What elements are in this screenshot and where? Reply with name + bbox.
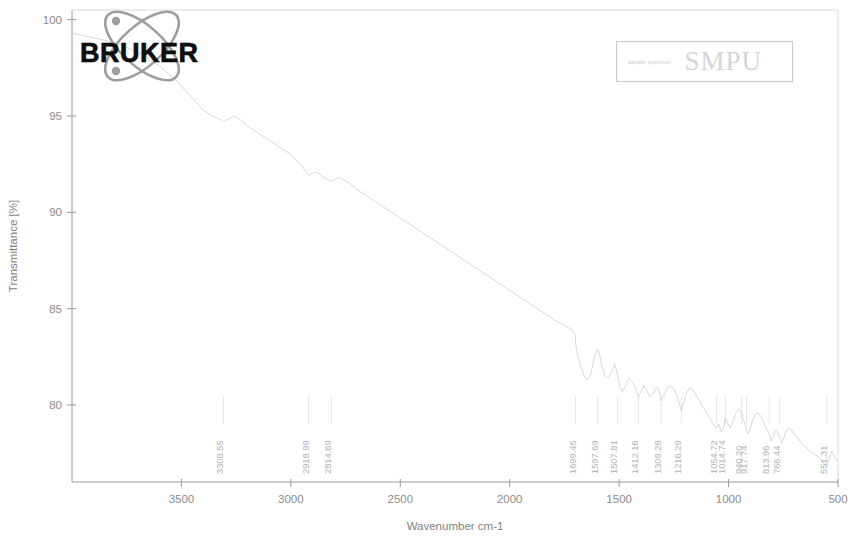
spectrum-trace — [72, 33, 837, 466]
peak-label: 2918.99 — [301, 440, 311, 474]
peak-label: 2814.69 — [323, 440, 333, 474]
peak-label: 1216.29 — [673, 440, 683, 474]
peak-label: 1308.28 — [653, 440, 663, 474]
sample-title: SMPU — [685, 46, 763, 77]
peak-label: 1014.74 — [717, 440, 727, 474]
peak-label: 3308.55 — [215, 440, 225, 474]
x-tick-label: 2000 — [497, 493, 523, 505]
peak-labels: 3308.552918.992814.691699.451597.691507.… — [215, 440, 828, 474]
bruker-wordmark: BRUKER — [80, 38, 199, 69]
peak-leader-lines — [223, 396, 826, 424]
ftir-spectrum-chart: 10095908580350030002500200015001000500 3… — [0, 0, 851, 544]
x-tick-label: 1500 — [606, 493, 632, 505]
peak-label: 1412.16 — [630, 440, 640, 474]
x-tick-label: 2500 — [387, 493, 413, 505]
peak-label: 766.44 — [772, 446, 782, 474]
x-tick-label: 3000 — [278, 493, 304, 505]
y-tick-label: 80 — [49, 399, 62, 411]
x-tick-label: 500 — [828, 493, 847, 505]
y-axis-title: Transmittance [%] — [7, 200, 19, 292]
axis-ticks — [67, 20, 838, 487]
sample-info-box: sample spectrum SMPU — [616, 41, 793, 82]
spectrum-line — [72, 33, 837, 466]
x-tick-label: 1000 — [716, 493, 742, 505]
x-tick-label: 3500 — [169, 493, 195, 505]
peak-label: 1597.69 — [590, 440, 600, 474]
y-tick-label: 100 — [43, 14, 62, 26]
peak-label: 551.31 — [819, 446, 829, 474]
y-tick-label: 95 — [49, 110, 62, 122]
peak-label: 1507.81 — [609, 440, 619, 474]
peak-label: 917.74 — [739, 446, 749, 474]
sample-subtitle: sample spectrum — [628, 59, 671, 65]
x-axis-title: Wavenumber cm-1 — [407, 520, 504, 532]
peak-label: 1699.45 — [568, 440, 578, 474]
y-tick-label: 90 — [49, 206, 62, 218]
bruker-logo: BRUKER — [68, 8, 233, 88]
peak-label: 813.96 — [761, 446, 771, 474]
y-tick-label: 85 — [49, 303, 62, 315]
